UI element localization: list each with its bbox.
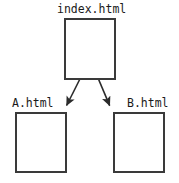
node-label-b: B.html — [127, 97, 169, 109]
node-box-b[interactable] — [113, 112, 165, 173]
diagram-canvas: index.html A.html B.html — [0, 0, 179, 183]
node-label-index: index.html — [57, 3, 126, 15]
node-box-a[interactable] — [15, 112, 67, 173]
node-label-a: A.html — [12, 97, 54, 109]
node-box-index[interactable] — [64, 18, 116, 80]
